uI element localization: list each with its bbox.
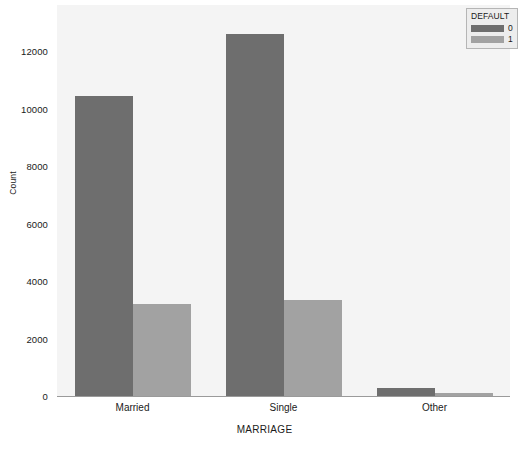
legend-swatch-icon	[471, 25, 504, 32]
bar-married-default-0	[75, 96, 133, 396]
y-axis: 020004000600080001000012000	[0, 0, 57, 451]
legend-entry-1[interactable]: 1	[471, 34, 513, 44]
legend-entry-label: 0	[508, 23, 513, 33]
legend-entry-0[interactable]: 0	[471, 23, 513, 33]
y-axis-tick-label: 2000	[26, 333, 48, 344]
bar-single-default-1	[284, 300, 342, 396]
legend-swatch-icon	[471, 36, 504, 43]
y-axis-tick-label: 10000	[21, 103, 48, 114]
x-axis-line	[57, 396, 510, 397]
y-axis-tick-label: 0	[43, 391, 48, 402]
bar-other-default-0	[377, 388, 435, 396]
y-axis-tick-label: 4000	[26, 276, 48, 287]
y-axis-tick-label: 12000	[21, 46, 48, 57]
legend[interactable]: DEFAULT 01	[466, 8, 518, 49]
legend-entries: 01	[471, 23, 513, 44]
x-axis-tick-label: Single	[270, 402, 298, 413]
bar-married-default-1	[133, 304, 191, 396]
y-axis-title: Count	[8, 153, 18, 213]
bar-single-default-0	[226, 34, 284, 396]
legend-title: DEFAULT	[471, 11, 513, 22]
bar-chart-figure: 020004000600080001000012000 Count Marrie…	[0, 0, 529, 451]
x-axis-tick-label: Other	[422, 402, 447, 413]
x-axis-tick-label: Married	[116, 402, 150, 413]
bar-other-default-1	[435, 393, 493, 396]
y-axis-tick-label: 8000	[26, 161, 48, 172]
x-axis-title: MARRIAGE	[0, 424, 529, 435]
legend-entry-label: 1	[508, 34, 513, 44]
y-axis-tick-label: 6000	[26, 218, 48, 229]
